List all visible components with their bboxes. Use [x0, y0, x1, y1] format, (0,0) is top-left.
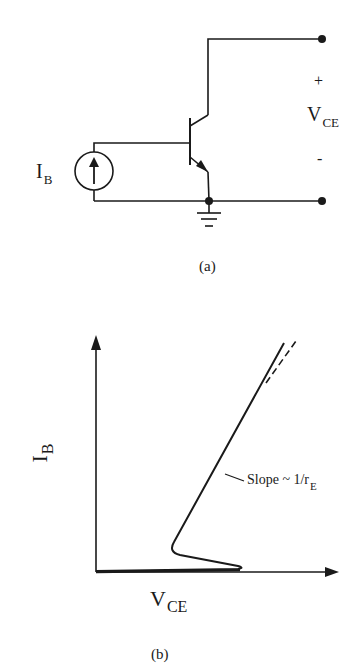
annotation-leader: [225, 474, 244, 481]
current-arrow-icon: [89, 157, 99, 167]
junction-dot: [205, 197, 213, 205]
caption-a: (a): [199, 258, 216, 275]
minus-sign: -: [317, 150, 322, 168]
terminal-bottom: [318, 197, 326, 205]
iv-plot: [96, 341, 332, 572]
x-axis-label: VCE: [150, 586, 187, 612]
base-wire: [94, 143, 190, 152]
source-label: IB: [36, 160, 52, 183]
iv-curve: [96, 343, 284, 571]
emitter-arrow: [196, 160, 208, 172]
y-axis-arrow: [91, 335, 101, 350]
y-axis-label: IB: [27, 444, 53, 463]
caption-b: (b): [151, 646, 169, 663]
collector-wire: [208, 39, 322, 115]
output-voltage-label: VCE: [307, 103, 339, 126]
terminal-top: [318, 35, 326, 43]
x-axis-arrow: [325, 567, 339, 577]
collector-lead: [190, 115, 208, 126]
slope-annotation: Slope ~ 1/rE: [247, 472, 317, 488]
plus-sign: +: [314, 72, 323, 90]
